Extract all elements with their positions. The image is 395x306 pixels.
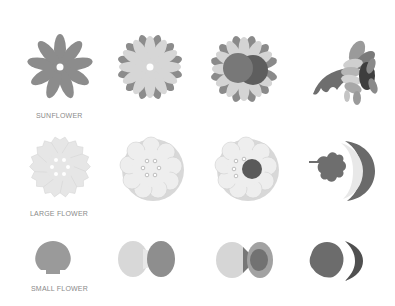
- small-flower-two-pieces-icon: [115, 237, 180, 281]
- sunflower-with-center-icon: [207, 32, 282, 107]
- small-flower-with-inner-piece-icon: [213, 237, 278, 281]
- large-flower-center-disc-icon: [210, 132, 282, 204]
- small-flower-assembled-icon: [305, 237, 370, 281]
- sunflower-step-4: [305, 38, 385, 108]
- small-flower-step-4: [305, 237, 370, 281]
- small-flower-step-3: [213, 237, 278, 281]
- small-flower-step-1: [32, 238, 74, 278]
- row-label-large-flower: LARGE FLOWER: [30, 210, 88, 217]
- large-flower-step-4: [305, 135, 385, 205]
- large-flower-layer-icon: [25, 132, 95, 202]
- large-flower-step-3: [210, 132, 282, 204]
- small-flower-shell-icon: [32, 238, 74, 278]
- large-flower-with-leaf-icon: [305, 135, 385, 205]
- sunflower-step-3: [207, 32, 282, 107]
- large-flower-step-1: [25, 132, 95, 202]
- sunflower-two-layers-icon: [115, 32, 185, 102]
- row-label-small-flower: SMALL FLOWER: [31, 285, 88, 292]
- sunflower-step-1: [25, 32, 95, 102]
- sunflower-petal-layer-icon: [25, 32, 95, 102]
- sunflower-step-2: [115, 32, 185, 102]
- large-flower-step-2: [115, 132, 187, 204]
- large-flower-stacked-icon: [115, 132, 187, 204]
- row-label-sunflower: SUNFLOWER: [36, 112, 83, 119]
- small-flower-step-2: [115, 237, 180, 281]
- sunflower-assembled-icon: [305, 38, 385, 108]
